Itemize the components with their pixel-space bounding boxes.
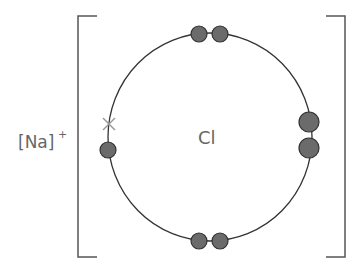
anion-symbol: Cl	[198, 127, 216, 148]
cation-label: [Na]	[18, 132, 54, 152]
cation-charge: +	[58, 128, 67, 141]
electron-gained	[100, 142, 116, 158]
right-bracket	[326, 16, 345, 257]
electron-pair-top	[191, 26, 228, 42]
ionic-bond-diagram: [Na] + Cl	[0, 0, 360, 271]
left-bracket	[78, 16, 97, 257]
electron-pair-right	[299, 112, 319, 158]
